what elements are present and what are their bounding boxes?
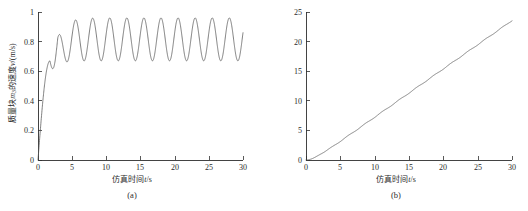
y-tick-label: 1 <box>30 8 34 17</box>
y-axis-title-mid: 的速度 <box>8 66 17 90</box>
x-ticks-a <box>38 156 243 160</box>
y-tick-label: 10 <box>294 97 302 106</box>
x-axis-title-prefix: 仿真时间 <box>376 175 408 184</box>
displacement-data-line <box>306 21 512 160</box>
x-tick-label: 30 <box>239 163 247 172</box>
y-tick-label: 0 <box>30 156 34 165</box>
figure-container: 0 5 10 15 20 25 30 0 0.2 0.4 0.6 0.8 1 仿… <box>0 0 528 211</box>
x-axis-title-a: 仿真时间t/s <box>0 176 264 184</box>
y-tick-label: 15 <box>294 67 302 76</box>
x-axis-title-b: 仿真时间t/s <box>264 176 528 184</box>
x-ticks-b <box>306 156 512 160</box>
y-tick-label: 0.6 <box>24 67 34 76</box>
y-axis-title-suffix: /(m/s) <box>8 43 17 62</box>
x-tick-labels-a: 0 5 10 15 20 25 30 <box>36 163 247 172</box>
x-tick-label: 5 <box>70 163 74 172</box>
velocity-data-line <box>38 18 243 160</box>
y-axis-title-var: m <box>8 93 17 99</box>
x-tick-label: 25 <box>474 163 482 172</box>
x-tick-label: 20 <box>439 163 447 172</box>
panel-caption-b: (b) <box>264 190 528 200</box>
y-axis-title-prefix: 质量块 <box>8 99 17 123</box>
y-tick-label: 5 <box>298 126 302 135</box>
x-axis-title-suffix: /s <box>146 175 151 184</box>
x-tick-label: 0 <box>36 163 40 172</box>
x-tick-label: 25 <box>205 163 213 172</box>
x-tick-label: 20 <box>171 163 179 172</box>
panel-caption-a: (a) <box>0 190 264 200</box>
x-tick-label: 15 <box>136 163 144 172</box>
x-axis-title-suffix: /s <box>410 175 415 184</box>
y-tick-label: 0.4 <box>24 97 34 106</box>
x-tick-label: 15 <box>405 163 413 172</box>
y-tick-label: 25 <box>294 8 302 17</box>
y-tick-label: 0 <box>298 156 302 165</box>
y-axis-title-sub: 3 <box>11 90 17 93</box>
chart-panel-b: 0 5 10 15 20 25 30 0 5 10 15 20 25 仿真时间t… <box>264 0 528 211</box>
x-tick-label: 0 <box>304 163 308 172</box>
y-tick-labels-a: 0 0.2 0.4 0.6 0.8 1 <box>24 8 34 165</box>
y-axis-title-a: 质量块m3的速度v/(m/s) <box>9 8 18 158</box>
x-tick-label: 10 <box>102 163 110 172</box>
x-tick-label: 10 <box>371 163 379 172</box>
x-tick-label: 5 <box>338 163 342 172</box>
x-tick-labels-b: 0 5 10 15 20 25 30 <box>304 163 516 172</box>
y-axis-title-var2: v <box>8 62 17 66</box>
chart-panel-a: 0 5 10 15 20 25 30 0 0.2 0.4 0.6 0.8 1 仿… <box>0 0 264 211</box>
x-tick-label: 30 <box>508 163 516 172</box>
y-tick-label: 0.8 <box>24 38 34 47</box>
x-axis-title-prefix: 仿真时间 <box>112 175 144 184</box>
y-tick-label: 20 <box>294 38 302 47</box>
y-tick-label: 0.2 <box>24 126 34 135</box>
y-ticks-b <box>306 12 310 160</box>
y-tick-labels-b: 0 5 10 15 20 25 <box>294 8 302 165</box>
